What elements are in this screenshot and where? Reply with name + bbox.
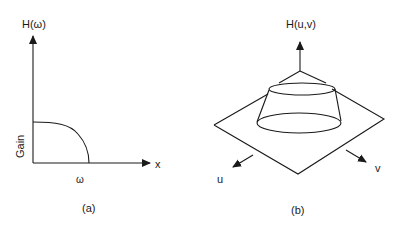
filter-diagram: H(ω) x Gain ω (a) H(u,v) u v (b) <box>0 0 399 227</box>
caption-b: (b) <box>291 204 304 216</box>
panel-a-1d-filter: H(ω) x Gain ω (a) <box>14 18 161 214</box>
bottom-ellipse <box>257 113 341 133</box>
apex-line-left <box>279 71 300 83</box>
y-axis-label: H(ω) <box>22 18 46 30</box>
apex-line-right <box>300 71 326 83</box>
frustum-side-left <box>257 90 269 122</box>
u-label: u <box>217 173 223 185</box>
u-axis-arrow-icon <box>233 155 253 167</box>
frequency-plane <box>214 89 384 174</box>
x-axis-label: x <box>155 158 161 170</box>
gain-curve <box>33 122 89 163</box>
v-axis-arrow-icon <box>346 150 366 162</box>
z-axis-label: H(u,v) <box>286 18 316 30</box>
gain-label: Gain <box>14 135 26 158</box>
v-label: v <box>375 162 381 174</box>
panel-b-2d-filter: H(u,v) u v (b) <box>214 18 384 216</box>
omega-label: ω <box>76 174 84 185</box>
top-ellipse <box>269 83 335 95</box>
caption-a: (a) <box>82 202 95 214</box>
